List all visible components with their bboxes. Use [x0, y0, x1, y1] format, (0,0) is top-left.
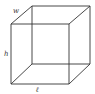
front-face: [11, 24, 69, 84]
edge-depth-bottom-right: [69, 64, 90, 84]
depth-edges: [11, 6, 90, 84]
length-label: ℓ: [35, 86, 39, 94]
width-label: w: [13, 7, 19, 15]
height-label: h: [4, 50, 9, 58]
edge-depth-top-right: [69, 6, 90, 24]
prism-diagram: w h ℓ: [0, 0, 95, 94]
back-face: [32, 6, 90, 64]
edge-depth-bottom-left: [11, 64, 32, 84]
